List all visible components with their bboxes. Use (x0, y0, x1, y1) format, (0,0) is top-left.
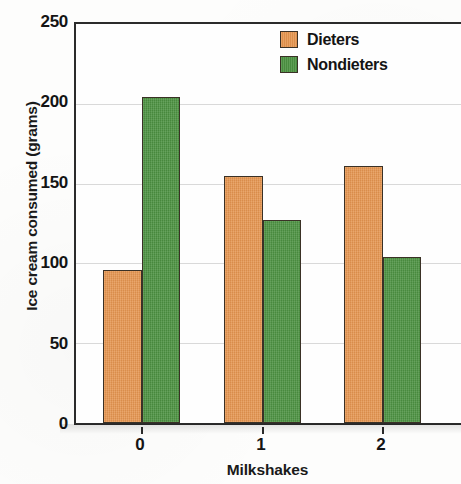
scan-shadow (60, 424, 461, 434)
legend-label-nondieters: Nondieters (307, 56, 388, 74)
y-axis-tick-labels: 250 200 150 100 50 0 (16, 0, 68, 484)
legend-label-dieters: Dieters (307, 31, 359, 49)
chart-legend: Dieters Nondieters (280, 28, 388, 76)
x-tick-mark-0 (141, 427, 143, 434)
bar-chart-figure: Ice cream consumed (grams) 250 200 150 1… (0, 0, 461, 484)
y-tick-label-200: 200 (22, 92, 68, 112)
x-axis-title: Milkshakes (74, 461, 461, 479)
bar-nondieters-2 (383, 257, 421, 423)
x-tick-mark-2 (382, 427, 384, 434)
plot-area (74, 22, 461, 425)
bar-nondieters-1 (263, 220, 301, 423)
y-tick-label-50: 50 (22, 334, 68, 354)
bar-dieters-1 (224, 176, 263, 423)
bar-nondieters-0 (142, 97, 180, 423)
y-tick-label-250: 250 (22, 12, 68, 32)
orange-swatch-icon (280, 31, 298, 48)
x-tick-mark-1 (262, 427, 264, 434)
x-tick-label-1: 1 (241, 435, 281, 455)
bar-dieters-0 (103, 270, 142, 423)
y-tick-label-100: 100 (22, 253, 68, 273)
legend-item-nondieters: Nondieters (280, 53, 388, 76)
bar-dieters-2 (344, 166, 383, 423)
y-tick-label-0: 0 (22, 414, 68, 434)
gridline-150 (76, 184, 461, 185)
x-tick-label-0: 0 (120, 435, 160, 455)
gridline-200 (76, 104, 461, 105)
x-tick-label-2: 2 (361, 435, 401, 455)
legend-item-dieters: Dieters (280, 28, 388, 51)
green-swatch-icon (280, 56, 298, 73)
y-tick-label-150: 150 (22, 173, 68, 193)
